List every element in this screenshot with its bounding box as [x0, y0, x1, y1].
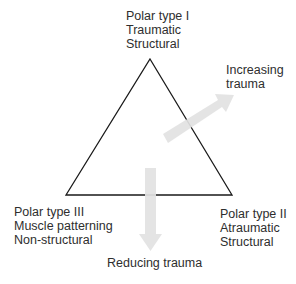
vertex-label-polar-type-2: Polar type II Atraumatic Structural	[220, 208, 287, 249]
vertex-label-line: Polar type III	[14, 206, 113, 220]
reducing-trauma-label: Reducing trauma	[107, 257, 202, 271]
increasing-trauma-label: Increasing trauma	[226, 64, 284, 92]
arrow-up-right-icon	[163, 94, 234, 143]
vertex-label-line: Polar type II	[220, 208, 287, 222]
vertex-label-line: Traumatic	[126, 24, 189, 38]
vertex-label-polar-type-1: Polar type I Traumatic Structural	[126, 10, 189, 51]
vertex-label-line: Polar type I	[126, 10, 189, 24]
vertex-label-line: Structural	[220, 236, 287, 250]
arrow-label-line: Increasing	[226, 64, 284, 78]
vertex-label-line: Atraumatic	[220, 222, 287, 236]
reducing-trauma-arrow	[139, 168, 162, 251]
vertex-label-line: Muscle patterning	[14, 220, 113, 234]
arrow-label-line: trauma	[226, 78, 284, 92]
vertex-label-polar-type-3: Polar type III Muscle patterning Non-str…	[14, 206, 113, 247]
vertex-label-line: Structural	[126, 38, 189, 52]
arrow-down-icon	[139, 168, 162, 251]
vertex-label-line: Non-structural	[14, 234, 113, 248]
arrow-label-line: Reducing trauma	[107, 257, 202, 271]
increasing-trauma-arrow	[163, 94, 234, 143]
